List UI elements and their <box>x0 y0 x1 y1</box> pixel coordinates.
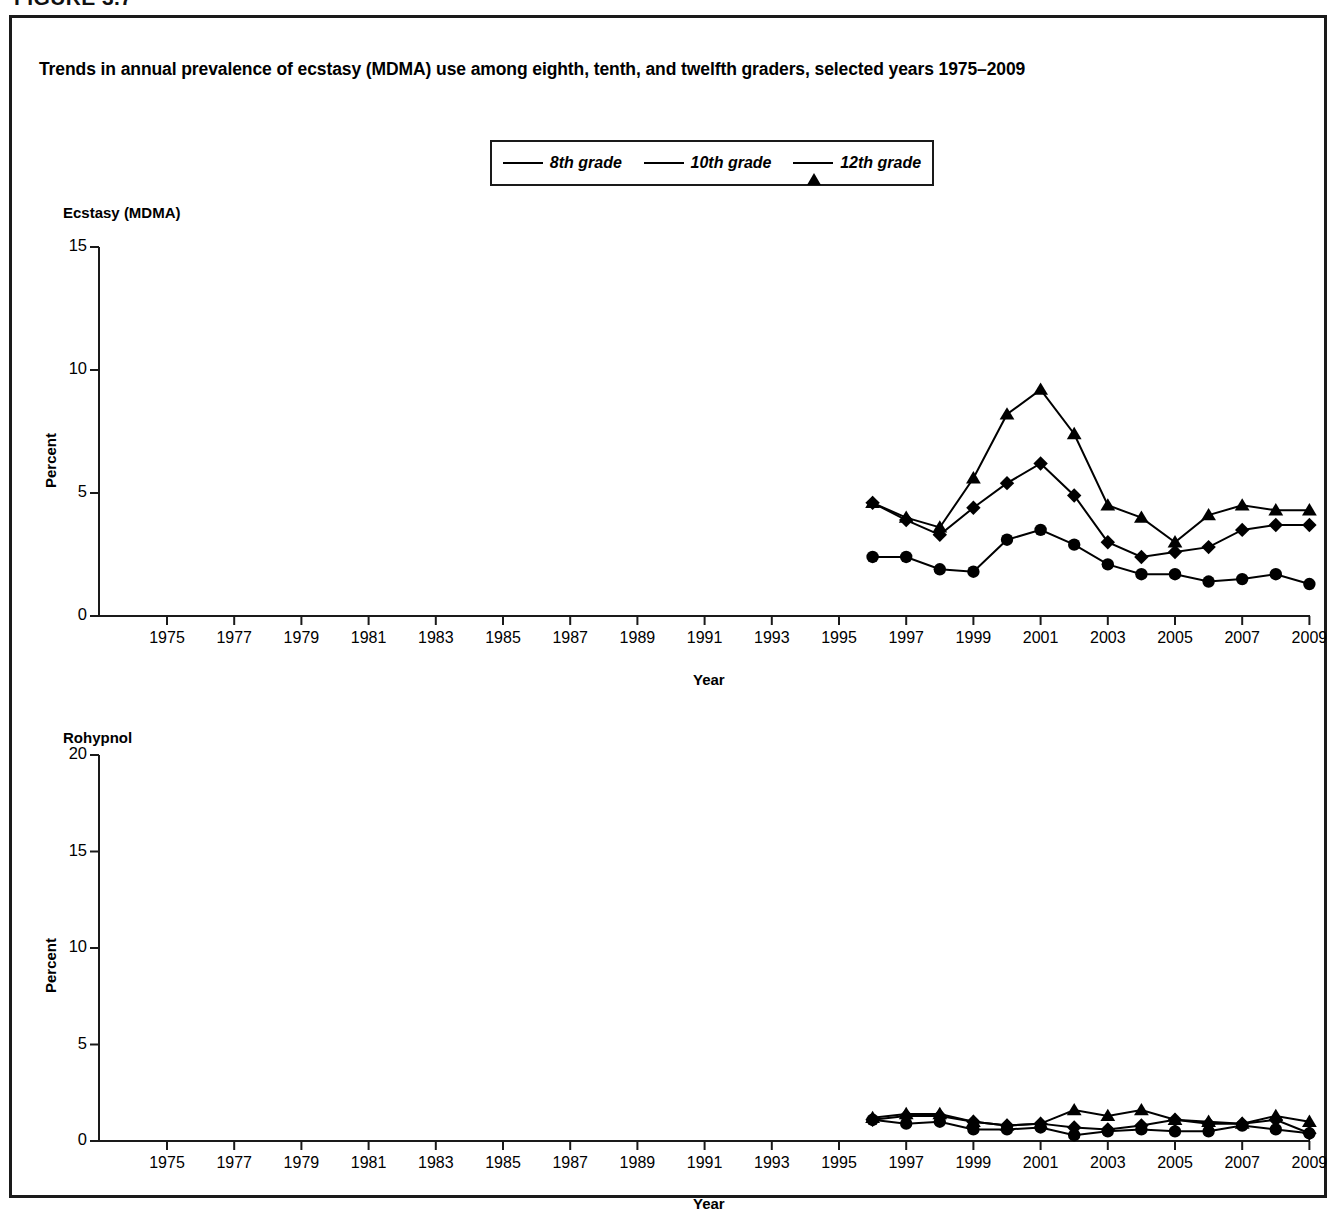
y-axis-tick-label: 0 <box>39 1130 87 1149</box>
x-axis-tick-label: 1993 <box>737 1154 807 1172</box>
x-axis-tick-label: 2001 <box>1006 1154 1076 1172</box>
x-axis-tick-label: 1997 <box>871 1154 941 1172</box>
y-axis-tick-label: 20 <box>39 744 87 763</box>
x-axis-tick-label: 2003 <box>1073 1154 1143 1172</box>
x-axis-tick-label: 1985 <box>468 1154 538 1172</box>
x-axis-label: Year <box>693 1195 725 1212</box>
x-axis-tick-label: 1987 <box>535 1154 605 1172</box>
x-axis-tick-label: 1991 <box>670 1154 740 1172</box>
x-axis-tick-label: 1979 <box>266 1154 336 1172</box>
x-axis-tick-label: 1975 <box>132 1154 202 1172</box>
y-axis-tick-label: 15 <box>39 841 87 860</box>
x-axis-tick-label: 1977 <box>199 1154 269 1172</box>
figure-frame: Trends in annual prevalence of ecstasy (… <box>9 15 1327 1198</box>
x-axis-tick-label: 1981 <box>334 1154 404 1172</box>
x-axis-tick-label: 1995 <box>804 1154 874 1172</box>
y-axis-tick-label: 10 <box>39 937 87 956</box>
chart-panel-rohypnol: Rohypnol Percent Year 051015201975197719… <box>12 18 1330 1201</box>
x-axis-tick-label: 1983 <box>401 1154 471 1172</box>
x-axis-tick-label: 1999 <box>938 1154 1008 1172</box>
y-axis-tick-label: 5 <box>39 1034 87 1053</box>
x-axis-tick-label: 1989 <box>602 1154 672 1172</box>
x-axis-tick-label: 2007 <box>1207 1154 1277 1172</box>
x-axis-tick-label: 2005 <box>1140 1154 1210 1172</box>
figure-number: FIGURE 3.7 <box>14 0 132 6</box>
x-axis-tick-label: 2009 <box>1274 1154 1342 1172</box>
